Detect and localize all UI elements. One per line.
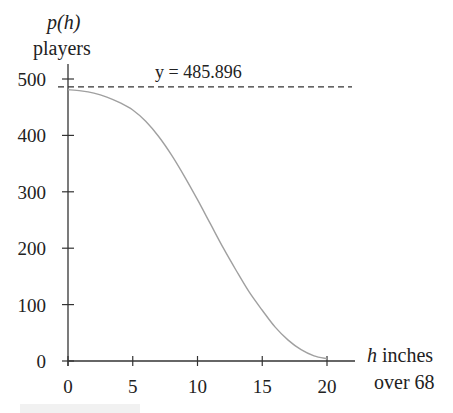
figure-caption-cropped (20, 404, 140, 413)
x-axis-label-text: inches (382, 344, 433, 366)
x-tick-label: 0 (48, 376, 88, 398)
x-axis-label-line1: h inches (367, 345, 433, 365)
y-tick-label: 200 (2, 238, 46, 260)
asymptote-label: y = 485.896 (155, 63, 242, 81)
axes (62, 64, 355, 366)
x-tick-label: 15 (242, 376, 282, 398)
y-tick-label: 400 (2, 125, 46, 147)
x-tick-label: 20 (307, 376, 347, 398)
y-tick-label: 500 (2, 69, 46, 91)
y-tick-label: 300 (2, 182, 46, 204)
x-tick-label: 5 (113, 376, 153, 398)
x-tick-label: 10 (178, 376, 218, 398)
y-tick-label: 0 (2, 351, 46, 373)
y-axis-label-unit: players (33, 38, 91, 58)
y-tick-label: 100 (2, 295, 46, 317)
x-axis-label-line2: over 68 (374, 372, 435, 392)
y-axis-label-function: p(h) (47, 12, 80, 32)
data-curve (68, 90, 327, 359)
